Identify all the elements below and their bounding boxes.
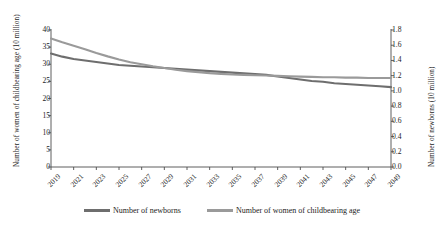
legend-label: Number of newborns [113, 206, 181, 215]
legend-label: Number of women of childbearing age [236, 206, 360, 215]
legend-item[interactable]: Number of newborns [84, 206, 181, 215]
legend-line-icon [84, 209, 110, 211]
legend-line-icon [207, 209, 233, 211]
chart-legend: Number of newbornsNumber of women of chi… [0, 206, 444, 215]
plot-area [0, 0, 444, 231]
series-line-0 [51, 54, 391, 87]
legend-item[interactable]: Number of women of childbearing age [207, 206, 360, 215]
chart-container: Number of women of childbearing age (10 … [0, 0, 444, 231]
